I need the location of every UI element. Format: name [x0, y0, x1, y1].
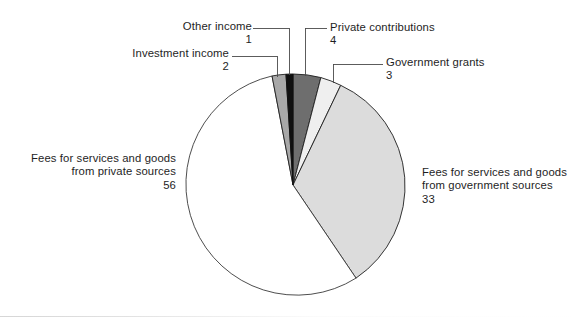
label-investment-income: Investment income 2	[12, 47, 229, 74]
label-investment-income-text: Investment income	[132, 47, 229, 59]
label-government-grants: Government grants 3	[386, 56, 576, 83]
label-private-contributions-text: Private contributions	[330, 21, 435, 33]
leader-line-government-grants	[333, 64, 383, 83]
label-other-income-value: 1	[92, 33, 252, 46]
label-fees-private-sources-line1: Fees for services and goods	[31, 152, 176, 164]
leader-line-private-contributions	[305, 28, 327, 76]
label-fees-government-sources-line1: Fees for services and goods	[422, 166, 567, 178]
label-government-grants-value: 3	[386, 69, 576, 82]
label-private-contributions: Private contributions 4	[330, 21, 530, 48]
label-government-grants-text: Government grants	[386, 56, 485, 68]
bottom-divider	[0, 316, 580, 317]
chart-canvas: Other income 1 Investment income 2 Priva…	[0, 0, 580, 326]
leader-line-investment-income	[232, 56, 277, 77]
label-fees-private-sources-line2: from private sources	[71, 165, 176, 177]
label-investment-income-value: 2	[12, 60, 229, 73]
label-private-contributions-value: 4	[330, 34, 530, 47]
label-fees-government-sources-value: 33	[422, 193, 580, 206]
label-fees-private-sources: Fees for services and goods from private…	[8, 152, 176, 192]
label-fees-private-sources-value: 56	[8, 179, 176, 192]
label-fees-government-sources: Fees for services and goods from governm…	[422, 166, 580, 206]
label-other-income: Other income 1	[92, 20, 252, 47]
label-fees-government-sources-line2: from government sources	[422, 179, 553, 191]
label-other-income-text: Other income	[183, 20, 252, 32]
leader-line-other-income	[253, 28, 289, 75]
